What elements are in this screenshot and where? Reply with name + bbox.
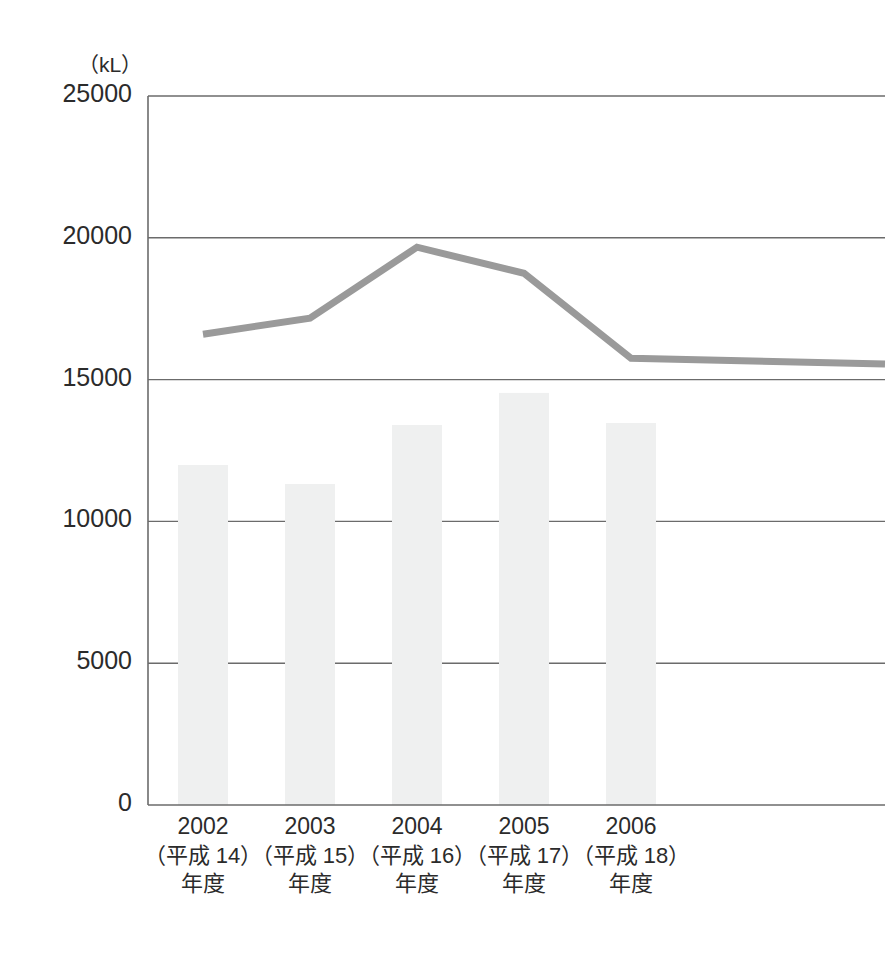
bar [392, 425, 442, 805]
line-series [203, 247, 885, 364]
x-axis-tick-labels: 2002（平成 14）年度2003（平成 15）年度2004（平成 16）年度2… [148, 812, 885, 932]
bar-series [178, 393, 656, 805]
bar [606, 423, 656, 805]
bar [499, 393, 549, 805]
x-label-year: 2006 [566, 812, 696, 842]
x-label-era: （平成 18） [566, 842, 696, 871]
bar [178, 465, 228, 805]
bar [285, 484, 335, 805]
chart-container: （kL） 0500010000150002000025000 2002（平成 1… [0, 0, 893, 957]
x-label-suffix: 年度 [566, 870, 696, 899]
line-path [203, 247, 885, 364]
x-axis-tick-label: 2006（平成 18）年度 [566, 812, 696, 899]
